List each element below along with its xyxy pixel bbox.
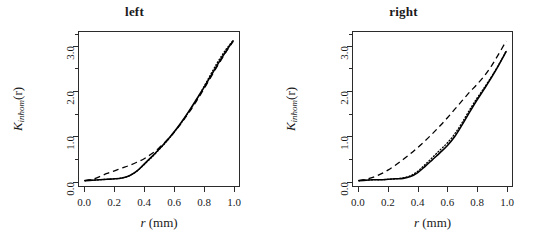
figure-container: left Kinhom(r) 0.01.02.03.0 r (mm) 0.00.…: [0, 0, 539, 250]
y-axis-left: Kinhom(r) 0.01.02.03.0: [0, 31, 78, 187]
panel-title-left: left: [0, 4, 269, 20]
curve-alternative-left: [85, 41, 233, 181]
x-tick-mark: [144, 187, 145, 192]
chart-panel-right: right Kinhom(r) 0.01.02.03.0 r (mm) 0.00…: [269, 0, 538, 250]
y-axis-title-var: K: [10, 122, 25, 131]
x-tick-label: 0.0: [77, 196, 91, 208]
plot-area-right: [352, 31, 513, 187]
x-tick-label: 0.0: [351, 196, 365, 208]
y-tick-label: 3.0: [64, 46, 76, 60]
curve-group-left: [85, 41, 233, 181]
y-tick-label: 1.0: [64, 136, 76, 150]
x-axis-title-unit: (mm): [149, 215, 178, 230]
y-axis-title-right: Kinhom(r): [283, 87, 299, 131]
curve-group-right: [359, 41, 506, 181]
x-axis-left: r (mm) 0.00.20.40.60.81.0: [78, 187, 240, 247]
y-axis-title-arg: (r): [283, 87, 298, 100]
curve-theoretical-left: [85, 41, 233, 180]
x-tick-label: 0.6: [167, 196, 181, 208]
x-axis-right: r (mm) 0.00.20.40.60.81.0: [352, 187, 513, 247]
x-tick-mark: [447, 187, 448, 192]
x-tick-label: 1.0: [227, 196, 241, 208]
plot-curves-left: [79, 32, 239, 186]
y-tick-label: 2.0: [64, 91, 76, 105]
y-tick-label: 2.0: [338, 91, 350, 105]
x-tick-mark: [234, 187, 235, 192]
y-axis-title-arg: (r): [10, 87, 25, 100]
y-tick-label: 0.0: [338, 182, 350, 196]
x-tick-label: 0.2: [381, 196, 395, 208]
plot-curves-right: [353, 32, 512, 186]
curve-empirical-left: [85, 41, 233, 181]
x-tick-mark: [114, 187, 115, 192]
x-tick-label: 0.4: [137, 196, 151, 208]
y-axis-title-left: Kinhom(r): [10, 87, 26, 131]
curve-empirical-right: [359, 52, 506, 181]
y-tick-label: 1.0: [338, 136, 350, 150]
x-tick-mark: [174, 187, 175, 192]
y-axis-title-subscript: inhom: [289, 100, 299, 123]
x-axis-title-var: r: [414, 215, 419, 230]
plot-area-left: [78, 31, 240, 187]
panel-title-right: right: [269, 4, 538, 20]
y-axis-right: Kinhom(r) 0.01.02.03.0: [269, 31, 352, 187]
x-tick-mark: [418, 187, 419, 192]
x-tick-mark: [388, 187, 389, 192]
x-axis-title-right: r (mm): [414, 215, 451, 231]
x-tick-mark: [84, 187, 85, 192]
y-axis-title-var: K: [283, 122, 298, 131]
curve-alternative-right: [359, 51, 506, 180]
y-axis-title-subscript: inhom: [16, 100, 26, 123]
x-tick-mark: [507, 187, 508, 192]
x-axis-title-left: r (mm): [140, 215, 177, 231]
x-axis-title-var: r: [140, 215, 145, 230]
x-tick-mark: [204, 187, 205, 192]
x-tick-mark: [477, 187, 478, 192]
x-tick-label: 0.2: [107, 196, 121, 208]
x-tick-label: 0.6: [441, 196, 455, 208]
y-tick-label: 3.0: [338, 46, 350, 60]
x-tick-label: 0.4: [411, 196, 425, 208]
x-axis-title-unit: (mm): [422, 215, 451, 230]
y-tick-label: 0.0: [64, 182, 76, 196]
chart-panel-left: left Kinhom(r) 0.01.02.03.0 r (mm) 0.00.…: [0, 0, 269, 250]
x-tick-label: 0.8: [470, 196, 484, 208]
x-tick-label: 0.8: [197, 196, 211, 208]
x-tick-label: 1.0: [500, 196, 514, 208]
x-tick-mark: [358, 187, 359, 192]
